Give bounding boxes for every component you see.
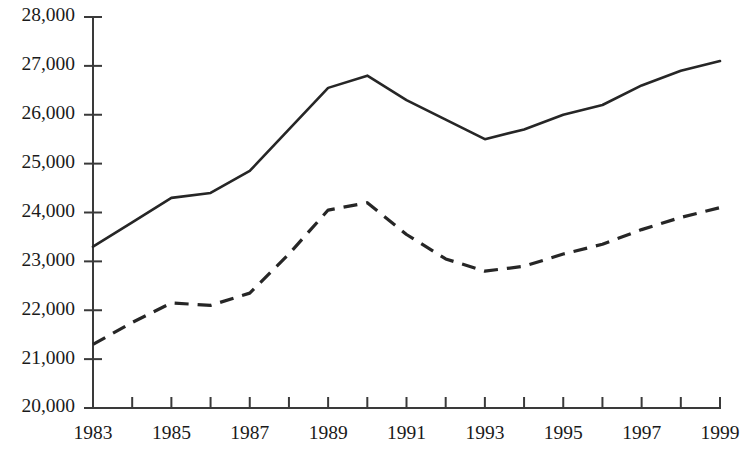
y-tick-label: 24,000 xyxy=(21,200,75,221)
x-tick-label: 1999 xyxy=(701,422,740,443)
y-tick-label: 23,000 xyxy=(21,249,75,270)
y-tick-label: 26,000 xyxy=(21,102,75,123)
x-tick-label: 1991 xyxy=(387,422,426,443)
x-tick-label: 1997 xyxy=(622,422,661,443)
x-axis-tick-labels: 198319851987198919911993199519971999 xyxy=(74,422,740,443)
y-tick-label: 22,000 xyxy=(21,298,75,319)
x-tick-label: 1989 xyxy=(309,422,348,443)
x-tick-label: 1987 xyxy=(230,422,269,443)
x-tick-label: 1985 xyxy=(152,422,191,443)
x-tick-label: 1983 xyxy=(74,422,113,443)
chart-canvas: 20,00021,00022,00023,00024,00025,00026,0… xyxy=(0,0,740,457)
y-tick-label: 25,000 xyxy=(21,151,75,172)
x-tick-label: 1995 xyxy=(544,422,583,443)
series-line-dashed xyxy=(93,203,720,345)
series-line-solid xyxy=(93,61,720,247)
line-chart: 20,00021,00022,00023,00024,00025,00026,0… xyxy=(0,0,740,457)
y-tick-label: 21,000 xyxy=(21,347,75,368)
x-tick-label: 1993 xyxy=(465,422,504,443)
y-tick-label: 20,000 xyxy=(21,395,75,416)
y-tick-label: 27,000 xyxy=(21,53,75,74)
y-axis-tick-labels: 20,00021,00022,00023,00024,00025,00026,0… xyxy=(21,4,75,416)
y-tick-label: 28,000 xyxy=(21,4,75,25)
